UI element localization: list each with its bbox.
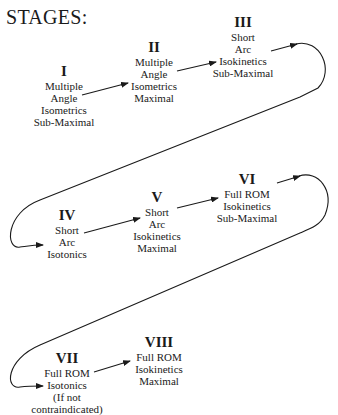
stage-numeral: I — [34, 64, 95, 79]
stage-numeral: VIII — [135, 335, 183, 350]
stage-line: Short — [213, 31, 274, 43]
stage-line: (If not — [31, 391, 102, 403]
stage-line: Full ROM — [217, 188, 278, 200]
stage-line: Short — [47, 224, 87, 236]
stage-line: Arc — [133, 218, 181, 230]
arrow-iv-to-v — [84, 218, 140, 233]
stage-i: I Multiple Angle Isometrics Sub-Maximal — [34, 64, 95, 128]
stage-line: Multiple — [34, 80, 95, 92]
stage-line: Full ROM — [31, 367, 102, 379]
stage-line: Full ROM — [135, 351, 183, 363]
stage-line: Angle — [34, 92, 95, 104]
stage-viii: VIII Full ROM Isokinetics Maximal — [135, 335, 183, 387]
stage-ii: II Multiple Angle Isometrics Maximal — [131, 40, 177, 104]
stage-line: Isometrics — [34, 104, 95, 116]
stage-line: Maximal — [133, 242, 181, 254]
stage-line: Isotonics — [31, 379, 102, 391]
stage-iii: III Short Arc Isokinetics Sub-Maximal — [213, 15, 274, 79]
stage-numeral: V — [133, 190, 181, 205]
stage-vii: VII Full ROM Isotonics (If not contraind… — [31, 351, 102, 415]
stage-line: Multiple — [131, 56, 177, 68]
arrow-v-to-vi — [177, 198, 218, 208]
stage-line: Maximal — [135, 375, 183, 387]
stage-line: Angle — [131, 68, 177, 80]
stage-numeral: VII — [31, 351, 102, 366]
arrow-vi-out — [277, 176, 300, 183]
stage-numeral: VI — [217, 172, 278, 187]
stage-vi: VI Full ROM Isokinetics Sub-Maximal — [217, 172, 278, 224]
stage-line: Arc — [47, 236, 87, 248]
stage-line: Short — [133, 206, 181, 218]
stage-line: Arc — [213, 43, 274, 55]
arrow-iii-out — [271, 44, 297, 51]
stage-line: Isotonics — [47, 248, 87, 260]
stage-line: Sub-Maximal — [217, 212, 278, 224]
stage-numeral: II — [131, 40, 177, 55]
stage-v: V Short Arc Isokinetics Maximal — [133, 190, 181, 254]
stage-line: Isokinetics — [135, 363, 183, 375]
stage-iv: IV Short Arc Isotonics — [47, 208, 87, 260]
stage-line: contraindicated) — [31, 403, 102, 415]
stage-line: Sub-Maximal — [213, 67, 274, 79]
stage-line: Isokinetics — [133, 230, 181, 242]
stage-line: Maximal — [131, 92, 177, 104]
stage-line: Isometrics — [131, 80, 177, 92]
stage-line: Sub-Maximal — [34, 116, 95, 128]
stage-numeral: III — [213, 15, 274, 30]
stage-numeral: IV — [47, 208, 87, 223]
arrow-ii-to-iii — [177, 62, 216, 71]
stage-line: Isokinetics — [217, 200, 278, 212]
stage-line: Isokinetics — [213, 55, 274, 67]
